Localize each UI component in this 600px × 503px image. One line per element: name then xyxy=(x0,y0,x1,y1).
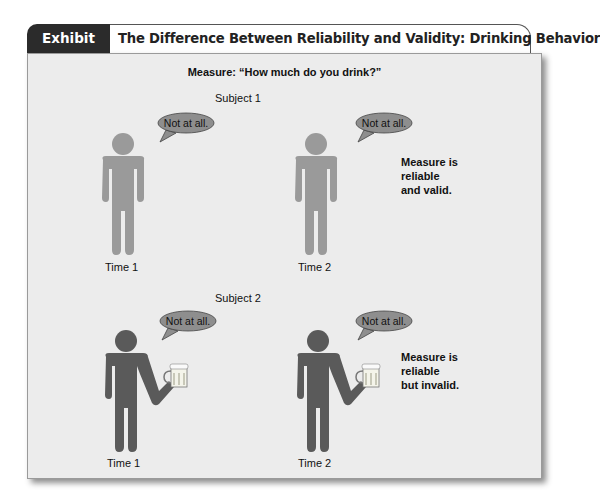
person-icon xyxy=(291,132,351,257)
verdict-invalid: Measure is reliable but invalid. xyxy=(401,350,481,392)
speech-bubble: Not at all. xyxy=(156,112,216,146)
speech-bubble: Not at all. xyxy=(354,112,414,146)
verdict-line: reliable xyxy=(401,169,481,183)
person-icon xyxy=(98,132,158,257)
verdict-line: Measure is xyxy=(401,350,481,364)
svg-text:Not at all.: Not at all. xyxy=(166,315,210,327)
time-label: Time 1 xyxy=(105,261,138,273)
verdict-line: but invalid. xyxy=(401,378,481,392)
time-label: Time 2 xyxy=(298,457,331,469)
figure-panel: Measure: “How much do you drink?” Subjec… xyxy=(27,53,542,479)
svg-text:Not at all.: Not at all. xyxy=(164,117,208,129)
verdict-line: Measure is xyxy=(401,155,481,169)
verdict-valid: Measure is reliable and valid. xyxy=(401,155,481,197)
verdict-line: reliable xyxy=(401,364,481,378)
time-label: Time 2 xyxy=(298,261,331,273)
svg-text:Not at all.: Not at all. xyxy=(362,315,406,327)
exhibit-label: Exhibit 4.17 xyxy=(27,24,110,53)
time-label: Time 1 xyxy=(107,457,140,469)
svg-text:Not at all.: Not at all. xyxy=(362,117,406,129)
verdict-line: and valid. xyxy=(401,183,481,197)
subject-1-label: Subject 1 xyxy=(215,92,261,104)
measure-question: Measure: “How much do you drink?” xyxy=(28,66,541,78)
speech-bubble: Not at all. xyxy=(158,310,218,344)
exhibit-title: The Difference Between Reliability and V… xyxy=(118,24,600,53)
person-with-mug-icon xyxy=(101,329,211,454)
speech-bubble: Not at all. xyxy=(354,310,414,344)
person-with-mug-icon xyxy=(293,329,403,454)
subject-2-label: Subject 2 xyxy=(215,292,261,304)
